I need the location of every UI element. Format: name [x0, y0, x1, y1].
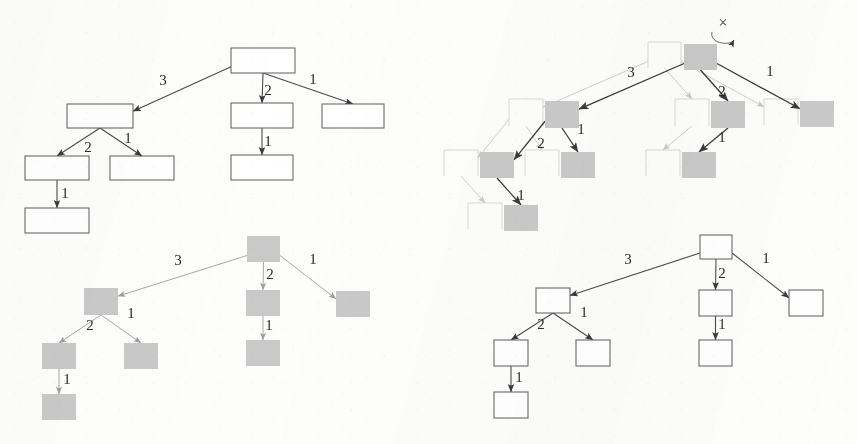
- tree-node[interactable]: [247, 236, 280, 262]
- tree-edge: [118, 256, 247, 297]
- tree-edge: [511, 313, 553, 340]
- tree-edge-ghost: [663, 126, 692, 150]
- tree-node-ghost: [675, 99, 709, 126]
- tree-node[interactable]: [25, 156, 89, 180]
- tree-node[interactable]: [699, 340, 732, 366]
- tree-node[interactable]: [42, 343, 76, 369]
- tree-node[interactable]: [561, 152, 595, 178]
- edge-weight-label: 2: [84, 139, 92, 155]
- tree-edge: [716, 259, 717, 290]
- panel-top-left: 3212111: [25, 48, 384, 233]
- tree-edge: [57, 128, 100, 156]
- edge-weight-label: 1: [264, 133, 272, 149]
- edge-weight-label: 2: [537, 135, 545, 151]
- edge-weight-label: 1: [124, 130, 132, 146]
- tree-node[interactable]: [699, 290, 732, 316]
- tree-node-ghost: [646, 150, 680, 176]
- tree-node[interactable]: [336, 291, 370, 317]
- tree-edge: [280, 256, 336, 299]
- tree-node[interactable]: [231, 48, 295, 73]
- edge-weight-label: 3: [627, 64, 635, 80]
- tree-node-ghost: [525, 150, 559, 176]
- edge-weight-label: 1: [766, 63, 774, 79]
- edge-weight-label: 1: [577, 121, 585, 137]
- tree-edge: [100, 128, 142, 156]
- edge-weight-label: 2: [264, 82, 272, 98]
- tree-node[interactable]: [246, 340, 280, 366]
- tree-edge: [101, 315, 141, 343]
- edge-weight-label: 3: [624, 251, 632, 267]
- tree-node[interactable]: [124, 343, 158, 369]
- panel-bottom-left: 3212111: [42, 236, 370, 420]
- tree-node-ghost: [444, 150, 478, 176]
- tree-node[interactable]: [42, 394, 76, 420]
- tree-edge: [263, 73, 353, 104]
- tree-node[interactable]: [545, 101, 579, 128]
- tree-edge: [133, 67, 231, 111]
- edge-weight-label: 2: [86, 317, 94, 333]
- tree-edge: [262, 73, 263, 103]
- tree-node[interactable]: [231, 103, 293, 128]
- tree-node[interactable]: [231, 155, 293, 180]
- tree-edge-ghost: [461, 176, 485, 203]
- panel-top-right-ghost-layer: [444, 42, 798, 229]
- tree-edge: [59, 315, 101, 343]
- tree-edge: [263, 262, 264, 290]
- edge-weight-label: 1: [718, 316, 726, 332]
- figure-canvas: 32121113212111×32121113212111: [0, 0, 857, 444]
- edge-weight-label: 1: [517, 187, 525, 203]
- tree-edge: [570, 253, 700, 296]
- edge-weight-label: 2: [718, 83, 726, 99]
- tree-node-ghost: [648, 42, 681, 68]
- swap-arc-arrow-icon: [712, 32, 734, 43]
- tree-node[interactable]: [682, 152, 716, 178]
- tree-diagram-figure: 32121113212111×32121113212111: [0, 0, 857, 444]
- tree-node[interactable]: [67, 104, 133, 128]
- tree-node[interactable]: [576, 340, 610, 366]
- edge-weight-label: 1: [580, 304, 588, 320]
- tree-edge: [732, 253, 789, 298]
- tree-node-ghost: [764, 99, 798, 125]
- edge-weight-label: 2: [537, 316, 545, 332]
- tree-node[interactable]: [25, 208, 89, 233]
- edge-weight-label: 1: [762, 250, 770, 266]
- tree-node-ghost: [468, 203, 502, 229]
- tree-node[interactable]: [110, 156, 174, 180]
- tree-node[interactable]: [684, 44, 717, 70]
- tree-node[interactable]: [789, 290, 823, 316]
- edge-weight-label: 3: [174, 252, 182, 268]
- tree-node[interactable]: [711, 101, 745, 128]
- tree-node[interactable]: [322, 104, 384, 128]
- edge-weight-label: 1: [309, 71, 317, 87]
- tree-node[interactable]: [536, 288, 570, 313]
- edge-weight-label: 1: [515, 369, 523, 385]
- tree-edge-ghost: [665, 68, 693, 99]
- panel-bottom-right: 3212111: [494, 235, 823, 418]
- tree-node[interactable]: [494, 392, 528, 418]
- edge-weight-label: 2: [718, 265, 726, 281]
- tree-node[interactable]: [480, 152, 514, 178]
- tree-edge: [562, 128, 578, 152]
- edge-weight-label: 1: [63, 371, 71, 387]
- edge-weight-label: 1: [127, 305, 135, 321]
- panel-top-right: 3212111×: [444, 14, 834, 231]
- tree-node-ghost: [509, 99, 543, 126]
- tree-node[interactable]: [700, 235, 732, 259]
- tree-node[interactable]: [494, 340, 528, 366]
- edge-weight-label: 1: [718, 129, 726, 145]
- cross-mark-icon: ×: [718, 14, 727, 31]
- edge-weight-label: 1: [309, 251, 317, 267]
- tree-node[interactable]: [84, 288, 118, 315]
- edge-weight-label: 3: [159, 72, 167, 88]
- tree-node[interactable]: [246, 290, 280, 316]
- edge-weight-label: 1: [61, 185, 69, 201]
- edge-weight-label: 1: [265, 317, 273, 333]
- tree-node[interactable]: [800, 101, 834, 127]
- tree-node[interactable]: [504, 205, 538, 231]
- edge-weight-label: 2: [266, 266, 274, 282]
